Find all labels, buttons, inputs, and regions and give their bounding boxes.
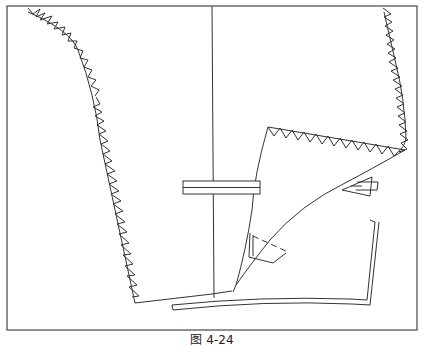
figure-caption: 图 4-24 xyxy=(0,334,424,346)
left-pattern-piece xyxy=(28,8,232,303)
horizontal-tab xyxy=(183,181,260,194)
folded-piece xyxy=(233,127,405,292)
right-pattern-piece xyxy=(383,8,408,152)
center-line xyxy=(212,6,214,298)
